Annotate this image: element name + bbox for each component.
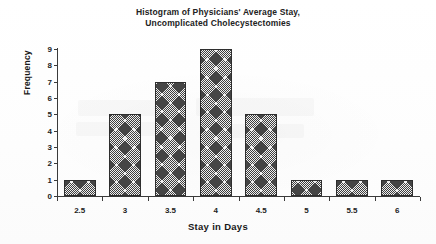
y-tick <box>54 82 58 83</box>
x-tick-label: 4 <box>214 206 218 215</box>
y-axis-title: Frequency <box>22 50 32 95</box>
y-tick <box>54 49 58 50</box>
y-tick <box>54 65 58 66</box>
x-tick <box>420 197 421 201</box>
y-tick <box>54 180 58 181</box>
bar <box>155 82 187 196</box>
chart-title-line-2: Uncomplicated Cholecystectomies <box>0 18 436 29</box>
x-tick <box>284 197 285 201</box>
y-axis-line <box>57 48 58 197</box>
y-tick-label: 7 <box>48 77 52 86</box>
y-tick-label: 8 <box>48 61 52 70</box>
bar <box>109 114 141 196</box>
bar <box>200 49 232 196</box>
x-tick <box>102 197 103 201</box>
x-tick <box>329 197 330 201</box>
y-tick <box>54 163 58 164</box>
y-tick-label: 9 <box>48 45 52 54</box>
y-tick-label: 6 <box>48 94 52 103</box>
y-tick-label: 2 <box>48 159 52 168</box>
x-tick-label: 5 <box>304 206 308 215</box>
x-tick <box>148 197 149 201</box>
x-tick <box>375 197 376 201</box>
y-tick <box>54 98 58 99</box>
y-tick-label: 1 <box>48 175 52 184</box>
y-tick <box>54 147 58 148</box>
x-tick <box>57 197 58 201</box>
y-tick-label: 4 <box>48 126 52 135</box>
plot-area: 0123456789 2.533.544.555.56 <box>57 48 420 197</box>
x-tick <box>193 197 194 201</box>
bar <box>381 180 413 196</box>
y-tick-label: 0 <box>48 192 52 201</box>
x-tick-label: 2.5 <box>74 206 85 215</box>
y-tick-label: 3 <box>48 143 52 152</box>
figure-page: Histogram of Physicians' Average Stay, U… <box>0 0 436 244</box>
x-tick-label: 6 <box>395 206 399 215</box>
bar <box>64 180 96 196</box>
x-tick-label: 3.5 <box>165 206 176 215</box>
chart-title: Histogram of Physicians' Average Stay, U… <box>0 7 436 29</box>
x-tick <box>239 197 240 201</box>
chart-title-line-1: Histogram of Physicians' Average Stay, <box>0 7 436 18</box>
x-tick-label: 3 <box>123 206 127 215</box>
x-tick-label: 5.5 <box>346 206 357 215</box>
bar <box>245 114 277 196</box>
bar <box>291 180 323 196</box>
bar <box>336 180 368 196</box>
y-tick <box>54 114 58 115</box>
x-tick-label: 4.5 <box>256 206 267 215</box>
x-axis-title: Stay in Days <box>0 221 436 232</box>
y-tick-label: 5 <box>48 110 52 119</box>
y-tick <box>54 131 58 132</box>
